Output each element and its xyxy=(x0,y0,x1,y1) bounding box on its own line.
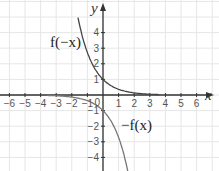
svg-text:−5: −5 xyxy=(19,98,31,109)
svg-text:3: 3 xyxy=(147,98,153,109)
svg-text:4: 4 xyxy=(93,27,99,38)
svg-text:0: 0 xyxy=(94,97,100,108)
svg-text:1: 1 xyxy=(93,74,99,85)
svg-text:1: 1 xyxy=(116,98,122,109)
x-axis-label: x xyxy=(204,87,212,103)
svg-text:5: 5 xyxy=(178,98,184,109)
y-axis-label: y xyxy=(89,0,98,16)
svg-text:3: 3 xyxy=(93,43,99,54)
svg-text:4: 4 xyxy=(163,98,169,109)
svg-text:−3: −3 xyxy=(50,98,62,109)
axes xyxy=(0,3,214,171)
svg-text:−4: −4 xyxy=(88,152,100,163)
svg-text:6: 6 xyxy=(194,98,200,109)
svg-text:2: 2 xyxy=(93,58,99,69)
curve-label-f-neg-x: f(−x) xyxy=(50,34,81,51)
svg-text:2: 2 xyxy=(131,98,137,109)
curve-label-neg-f-x: −f(x) xyxy=(121,117,152,134)
svg-text:−2: −2 xyxy=(88,121,100,132)
svg-text:−3: −3 xyxy=(88,136,100,147)
svg-text:−6: −6 xyxy=(4,98,16,109)
svg-text:−2: −2 xyxy=(66,98,78,109)
svg-text:−4: −4 xyxy=(35,98,47,109)
function-graph: −6−5−4−3−2−1123456−4−3−2−112340 x y f(−x… xyxy=(0,0,219,171)
